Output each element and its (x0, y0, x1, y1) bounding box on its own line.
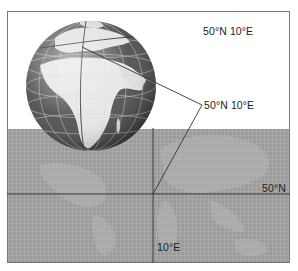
latitude-label: 50°N (262, 182, 286, 194)
flat-map-continents (40, 135, 269, 256)
diagram-overlay (0, 0, 298, 271)
pointer-coordinate-label: 50°N 10°E (204, 99, 254, 111)
title-coordinate-label: 50°N 10°E (203, 25, 253, 37)
globe (26, 19, 156, 151)
longitude-label: 10°E (157, 241, 180, 253)
